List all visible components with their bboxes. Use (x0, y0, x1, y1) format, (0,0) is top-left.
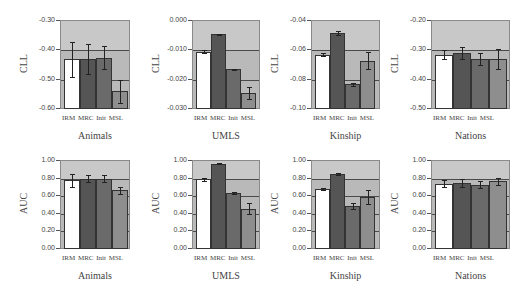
error-bar (462, 179, 463, 186)
y-tick-label: 1.00 (27, 156, 55, 163)
y-tick-label: -0.40 (27, 45, 55, 52)
bar-mrc (453, 183, 471, 249)
error-cap-top (460, 47, 465, 48)
y-tick-label: -0.30 (398, 45, 426, 52)
error-cap-bottom (478, 65, 483, 66)
error-bar (88, 175, 89, 182)
error-bar (498, 49, 499, 70)
bar-mrc (80, 179, 96, 249)
y-tick-label: -0.10 (278, 104, 306, 111)
chart-title: Nations (431, 270, 510, 281)
error-cap-bottom (70, 187, 75, 188)
y-tick-label: 1.00 (159, 156, 187, 163)
error-cap-bottom (442, 187, 447, 188)
error-cap-top (247, 87, 252, 88)
error-cap-bottom (232, 70, 237, 71)
error-cap-top (442, 180, 447, 181)
error-cap-top (478, 181, 483, 182)
bar-init (345, 84, 360, 109)
error-cap-bottom (86, 182, 91, 183)
y-tick-label: 0.00 (278, 244, 306, 251)
error-cap-bottom (202, 181, 207, 182)
error-cap-top (351, 203, 356, 204)
x-category-labels: IRM MRC Init MSL (194, 114, 262, 122)
error-cap-top (460, 179, 465, 180)
error-cap-top (102, 175, 107, 176)
bar-init (471, 59, 489, 109)
y-tick-label: -0.30 (27, 16, 55, 23)
bar-irm (196, 179, 211, 249)
y-tick-label: -0.60 (27, 104, 55, 111)
y-tick-label: 0.80 (278, 174, 306, 181)
error-bar (72, 174, 73, 186)
y-tick-label: -0.030 (159, 104, 187, 111)
bar-irm (435, 184, 453, 249)
error-cap-bottom (232, 194, 237, 195)
error-cap-top (351, 83, 356, 84)
bar-mrc (211, 34, 226, 109)
plot-upper-band (432, 161, 509, 179)
bar-init (226, 193, 241, 249)
bar-irm (315, 189, 330, 249)
x-category-labels: IRM MRC Init MSL (313, 254, 382, 262)
y-tick-label: 0.60 (159, 191, 187, 198)
error-bar (480, 181, 481, 188)
error-cap-bottom (336, 35, 341, 36)
y-tick-label: 0.40 (398, 209, 426, 216)
x-category-labels: IRM MRC Init MSL (62, 114, 132, 122)
y-tick-label: 0.60 (27, 191, 55, 198)
error-cap-top (118, 80, 123, 81)
error-cap-bottom (118, 194, 123, 195)
error-bar (120, 80, 121, 103)
y-tick-label: 0.20 (278, 226, 306, 233)
error-cap-bottom (70, 77, 75, 78)
bar-init (471, 185, 489, 249)
error-bar (104, 46, 105, 69)
bar-init (96, 179, 112, 249)
bar-irm (435, 55, 453, 109)
error-cap-top (70, 174, 75, 175)
x-category-labels: IRM MRC Init MSL (62, 254, 132, 262)
y-tick-label: -0.04 (278, 16, 306, 23)
error-cap-bottom (351, 209, 356, 210)
y-tick-label: 0.40 (27, 209, 55, 216)
y-tick-label: 0.20 (159, 226, 187, 233)
y-tick-label: 0.80 (27, 174, 55, 181)
error-cap-top (496, 178, 501, 179)
y-tick-label: 1.00 (278, 156, 306, 163)
error-cap-bottom (496, 185, 501, 186)
bar-mrc (330, 33, 345, 109)
y-tick-label: -0.20 (398, 16, 426, 23)
error-cap-bottom (460, 187, 465, 188)
error-bar (249, 87, 250, 99)
x-category-labels: IRM MRC Init MSL (313, 114, 382, 122)
error-cap-bottom (247, 214, 252, 215)
error-cap-bottom (496, 69, 501, 70)
error-cap-bottom (247, 99, 252, 100)
error-cap-top (442, 50, 447, 51)
error-cap-top (478, 53, 483, 54)
error-cap-top (70, 42, 75, 43)
y-tick-label: 0.40 (278, 209, 306, 216)
error-cap-bottom (460, 59, 465, 60)
error-bar (368, 190, 369, 204)
error-cap-bottom (202, 53, 207, 54)
error-cap-top (202, 50, 207, 51)
y-tick-label: 0.60 (398, 191, 426, 198)
gridline (312, 179, 379, 180)
plot-area (431, 20, 510, 109)
plot-area (192, 20, 260, 109)
y-tick-label: 0.80 (159, 174, 187, 181)
y-tick-label: 0.000 (159, 16, 187, 23)
error-bar (444, 180, 445, 187)
error-cap-bottom (102, 182, 107, 183)
plot-upper-band (432, 21, 509, 50)
plot-upper-band (312, 21, 379, 50)
chart-title: Kinship (311, 270, 380, 281)
bar-irm (64, 180, 80, 249)
y-tick-label: 0.20 (27, 226, 55, 233)
y-tick-label: 0.00 (159, 244, 187, 251)
error-bar (368, 52, 369, 70)
error-cap-top (496, 49, 501, 50)
plot-area (311, 160, 380, 249)
